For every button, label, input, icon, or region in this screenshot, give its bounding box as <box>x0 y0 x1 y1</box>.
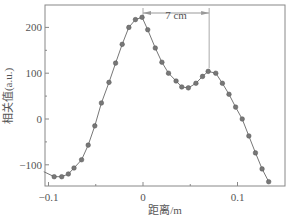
data-point <box>194 81 199 86</box>
data-point <box>253 151 258 156</box>
data-point <box>160 60 165 65</box>
arrow-right-icon <box>201 11 209 15</box>
data-point <box>247 134 252 139</box>
data-point <box>233 105 238 110</box>
data-point <box>266 179 271 184</box>
y-tick-label: 100 <box>26 67 43 79</box>
data-point <box>113 61 118 66</box>
data-point <box>59 174 64 179</box>
data-point <box>153 46 158 51</box>
data-point <box>200 74 205 79</box>
annotation-label: 7 cm <box>165 9 187 21</box>
x-tick-label: −0.1 <box>39 191 59 203</box>
data-point <box>174 79 179 84</box>
data-point <box>145 27 150 32</box>
x-tick-label: 0.1 <box>231 191 245 203</box>
data-point <box>166 71 171 76</box>
data-point <box>107 80 112 85</box>
data-point <box>213 71 218 76</box>
data-point <box>179 85 184 90</box>
data-point <box>227 92 232 97</box>
data-point <box>66 172 71 177</box>
y-tick-label: 0 <box>37 113 43 125</box>
data-point <box>99 101 104 106</box>
y-tick-label: 200 <box>26 21 43 33</box>
data-point <box>260 167 265 172</box>
data-point <box>52 174 57 179</box>
data-point <box>186 86 191 91</box>
data-point <box>240 117 245 122</box>
data-point <box>120 42 125 47</box>
data-point <box>79 157 84 162</box>
data-point <box>140 15 145 20</box>
x-tick-label: 0 <box>140 191 146 203</box>
data-point <box>93 124 98 129</box>
data-point <box>220 81 225 86</box>
data-point <box>206 69 211 74</box>
data-point <box>133 17 138 22</box>
data-point <box>127 25 132 30</box>
data-point <box>72 166 77 171</box>
x-axis-title: 距离/m <box>148 203 182 216</box>
y-tick-label: −100 <box>19 159 42 171</box>
axis-ticks <box>45 27 238 186</box>
correlation-chart: −0.100.1−1000100200 7 cm 距离/m 相关值(a.u.) <box>0 0 291 222</box>
data-markers <box>52 15 271 184</box>
arrow-left-icon <box>143 11 151 15</box>
data-point <box>86 143 91 148</box>
y-axis-title: 相关值(a.u.) <box>1 68 15 125</box>
data-line <box>44 17 269 181</box>
